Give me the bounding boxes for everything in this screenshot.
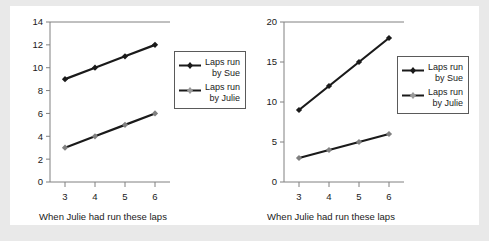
x-tick-label: 4 — [326, 191, 331, 202]
legend-item-sue[interactable]: Laps runby Sue — [179, 57, 240, 79]
y-tick-label: 2 — [38, 154, 43, 165]
legend-item-julie[interactable]: Laps runby Julie — [402, 87, 463, 109]
y-tick-label: 4 — [38, 131, 43, 142]
y-tick-label: 15 — [266, 56, 277, 67]
data-point-marker — [92, 65, 98, 71]
data-point-marker — [62, 145, 68, 151]
y-tick-label: 10 — [32, 62, 43, 73]
diamond-marker-gray-icon — [402, 88, 424, 101]
legend-left: Laps runby Sue Laps runby Julie — [174, 51, 246, 109]
series-line — [65, 45, 155, 79]
figure-panel: 024681012143456 Laps runby Sue — [10, 6, 479, 225]
diamond-marker-gray-icon — [179, 83, 201, 96]
x-tick-label: 5 — [122, 191, 127, 202]
data-point-marker — [296, 155, 302, 161]
line-chart-left: 024681012143456 — [24, 14, 174, 210]
plot-area-left: 024681012143456 — [24, 14, 174, 210]
data-point-marker — [122, 122, 128, 128]
x-tick-label: 5 — [356, 191, 361, 202]
diamond-marker-black-icon — [402, 63, 424, 76]
data-point-marker — [152, 42, 158, 48]
series-line — [299, 38, 389, 110]
data-point-marker — [386, 131, 392, 137]
legend-item-julie[interactable]: Laps runby Julie — [179, 82, 240, 104]
data-point-marker — [152, 110, 158, 116]
y-tick-label: 6 — [38, 108, 43, 119]
series-line — [65, 113, 155, 147]
y-tick-label: 14 — [32, 16, 43, 27]
line-chart-right: 051015203456 — [258, 14, 408, 210]
chart-left: 024681012143456 Laps runby Sue — [10, 6, 244, 225]
data-point-marker — [92, 133, 98, 139]
figure-root: 024681012143456 Laps runby Sue — [0, 0, 489, 241]
x-tick-label: 6 — [386, 191, 391, 202]
data-point-marker — [356, 139, 362, 145]
y-tick-label: 0 — [38, 176, 43, 187]
x-tick-label: 4 — [92, 191, 97, 202]
x-axis-title-right: When Julie had run these laps — [246, 211, 416, 222]
y-tick-label: 10 — [266, 96, 277, 107]
data-point-marker — [62, 76, 68, 82]
legend-label-sue: Laps runby Sue — [205, 57, 240, 79]
y-tick-label: 5 — [272, 136, 277, 147]
x-axis-title-left: When Julie had run these laps — [18, 211, 188, 222]
y-tick-label: 12 — [32, 39, 43, 50]
charts-container: 024681012143456 Laps runby Sue — [10, 6, 479, 225]
y-tick-label: 0 — [272, 176, 277, 187]
legend-label-julie: Laps runby Julie — [428, 87, 463, 109]
legend-label-julie: Laps runby Julie — [205, 82, 240, 104]
x-tick-label: 3 — [62, 191, 67, 202]
data-point-marker — [122, 53, 128, 59]
plot-area-right: 051015203456 — [258, 14, 408, 210]
series-line — [299, 134, 389, 158]
legend-item-sue[interactable]: Laps runby Sue — [402, 62, 463, 84]
y-tick-label: 20 — [266, 16, 277, 27]
chart-right: 051015203456 Laps runby Sue — [244, 6, 478, 225]
x-tick-label: 6 — [152, 191, 157, 202]
y-tick-label: 8 — [38, 85, 43, 96]
diamond-marker-black-icon — [179, 58, 201, 71]
legend-right: Laps runby Sue Laps runby Julie — [397, 56, 469, 114]
x-tick-label: 3 — [296, 191, 301, 202]
data-point-marker — [326, 147, 332, 153]
legend-label-sue: Laps runby Sue — [428, 62, 463, 84]
